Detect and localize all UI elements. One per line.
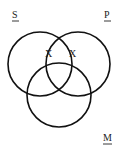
label-m: M [103, 132, 112, 143]
label-p: P [104, 9, 110, 20]
x-mark-left: X [45, 48, 53, 59]
circle-p [46, 32, 110, 96]
label-s: S [12, 9, 18, 20]
venn-diagram: S P M X X [0, 0, 123, 148]
x-mark-right: X [69, 48, 77, 59]
circle-s [8, 32, 72, 96]
circle-m [27, 63, 91, 127]
